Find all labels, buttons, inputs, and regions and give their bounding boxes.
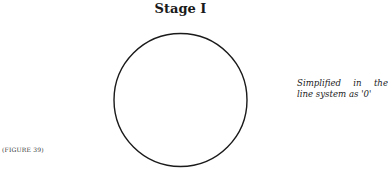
circle-shape — [114, 34, 247, 167]
caption-word: the — [374, 78, 388, 89]
caption-word: in — [353, 78, 361, 89]
caption-line-2: line system as '0' — [297, 89, 388, 100]
caption: Simplified in the line system as '0' — [297, 78, 388, 100]
caption-word: Simplified — [297, 78, 341, 89]
figure-label: (FIGURE 39) — [2, 146, 44, 153]
caption-line-1: Simplified in the — [297, 78, 388, 89]
